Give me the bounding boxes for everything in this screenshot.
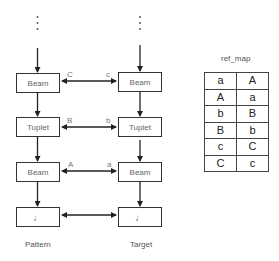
link-label-right: c (106, 70, 110, 79)
table-row: Cc (205, 155, 269, 172)
table-cell: c (237, 155, 269, 172)
node-label: Tuplet (129, 123, 151, 132)
target-label: Target (130, 240, 152, 249)
table-cell: C (205, 155, 237, 172)
table-row: bB (205, 106, 269, 123)
pattern-node-note: ♩ (16, 207, 60, 227)
ellipsis-left (37, 16, 39, 30)
table-cell: b (237, 122, 269, 139)
ellipsis-right (139, 16, 141, 30)
target-node-note: ♩ (118, 207, 162, 227)
pattern-node-tuplet: Tuplet (16, 117, 60, 137)
link-label-right: a (107, 160, 111, 169)
ref-map-table: aA Aa bB Bb cC Cc (204, 72, 269, 172)
link-label-left: B (67, 116, 72, 125)
pattern-node-beam: Beam (16, 73, 60, 93)
node-label: Tuplet (27, 123, 49, 132)
table-cell: c (205, 139, 237, 156)
table-row: cC (205, 139, 269, 156)
link-label-left: C (67, 70, 73, 79)
table-cell: C (237, 139, 269, 156)
quarter-note-icon: ♩ (135, 212, 145, 223)
table-row: aA (205, 73, 269, 90)
node-label: Beam (28, 79, 49, 88)
table-cell: b (205, 106, 237, 123)
table-row: Aa (205, 89, 269, 106)
link-label-left: A (68, 160, 73, 169)
table-cell: A (237, 73, 269, 90)
node-label: Beam (28, 168, 49, 177)
table-cell: a (205, 73, 237, 90)
node-label: Beam (130, 78, 151, 87)
table-cell: a (237, 89, 269, 106)
target-node-beam: Beam (118, 162, 162, 182)
quarter-note-icon: ♩ (33, 212, 43, 223)
pattern-label: Pattern (25, 240, 51, 249)
table-cell: B (237, 106, 269, 123)
table-row: Bb (205, 122, 269, 139)
target-node-beam: Beam (118, 72, 162, 92)
ref-map-title: ref_map (221, 54, 250, 63)
target-node-tuplet: Tuplet (118, 117, 162, 137)
pattern-node-beam: Beam (16, 162, 60, 182)
table-cell: A (205, 89, 237, 106)
link-label-right: b (106, 116, 110, 125)
node-label: Beam (130, 168, 151, 177)
table-cell: B (205, 122, 237, 139)
